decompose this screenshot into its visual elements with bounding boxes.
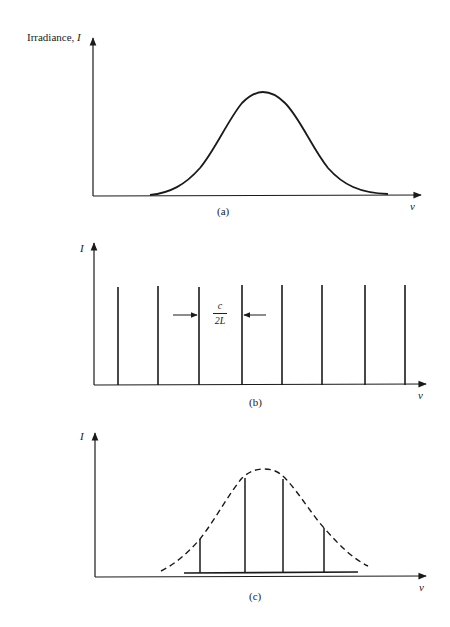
- mode-spacing-label: c 2L: [210, 301, 230, 326]
- panel-c-x-axis: [95, 576, 426, 577]
- panel-c-gain-envelope: [161, 469, 368, 571]
- panel-c-modes: [200, 478, 324, 573]
- panel-a-gain-curve: [150, 92, 388, 195]
- panel-c: [95, 433, 426, 577]
- panel-c-x-axis-label: ν: [419, 582, 424, 593]
- panel-b-modes: [118, 285, 405, 385]
- panel-c-y-axis-label: I: [80, 431, 84, 442]
- panel-c-comb-baseline: [184, 572, 358, 573]
- panel-b-caption: (b): [249, 397, 262, 408]
- panel-a-x-axis: [93, 195, 421, 196]
- spacing-numerator: c: [210, 301, 230, 311]
- panel-a: [93, 38, 421, 196]
- fraction-bar: [213, 313, 227, 314]
- panel-b-x-axis: [94, 384, 426, 385]
- panel-b: [94, 243, 426, 385]
- panel-c-caption: (c): [249, 591, 261, 602]
- spacing-denominator: 2L: [210, 316, 230, 326]
- panel-b-y-axis-label: I: [80, 243, 84, 254]
- panel-a-caption: (a): [217, 206, 229, 217]
- panel-a-x-axis-label: ν: [410, 201, 415, 212]
- panel-b-x-axis-label: ν: [418, 390, 423, 401]
- panel-a-y-axis-label: Irradiance, I: [27, 32, 81, 43]
- y-axis-label-text: Irradiance,: [27, 31, 77, 43]
- y-axis-symbol: I: [77, 31, 81, 43]
